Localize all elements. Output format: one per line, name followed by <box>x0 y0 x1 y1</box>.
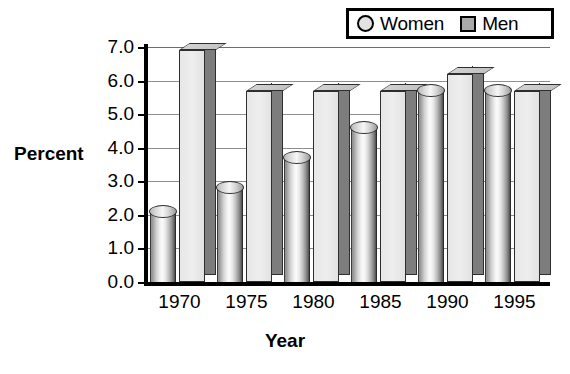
bar-women-1970[interactable] <box>150 212 176 283</box>
x-tick-label: 1970 <box>158 291 200 313</box>
x-axis-line <box>144 282 550 286</box>
y-axis-tick <box>138 81 145 83</box>
x-tick-label: 1985 <box>359 291 401 313</box>
bar-cylinder-body <box>284 158 310 282</box>
bar-side-face <box>339 84 350 275</box>
bar-women-1985[interactable] <box>351 128 377 282</box>
bar-women-1980[interactable] <box>284 158 310 282</box>
legend-entry-men[interactable]: Men <box>460 13 518 35</box>
x-tick-label: 1990 <box>426 291 468 313</box>
bar-front-face <box>514 91 540 282</box>
circle-marker-icon <box>357 15 374 32</box>
y-axis-tick <box>138 181 145 183</box>
bar-side-face <box>205 43 216 275</box>
legend-label-women: Women <box>380 13 444 35</box>
bar-cylinder-top <box>283 151 311 164</box>
x-tick-label: 1975 <box>225 291 267 313</box>
bar-top-face <box>447 67 495 74</box>
bar-front-face <box>313 91 339 282</box>
bar-side-face <box>473 67 484 275</box>
chart-title-fragment: g <box>0 0 570 8</box>
bar-cylinder-body <box>217 188 243 282</box>
bar-cylinder-top <box>417 84 445 97</box>
y-axis-title: Percent <box>14 143 84 165</box>
y-tick-label: 2.0 <box>108 204 134 226</box>
bar-side-face <box>272 84 283 275</box>
bar-men-1985[interactable] <box>380 91 406 282</box>
bar-side-face <box>406 84 417 275</box>
y-tick-label: 5.0 <box>108 103 134 125</box>
bar-front-face <box>447 74 473 282</box>
bar-cylinder-body <box>485 91 511 282</box>
y-axis-tick <box>138 248 145 250</box>
chart-legend: Women Men <box>346 8 554 39</box>
bar-side-face <box>540 84 551 275</box>
bar-group-container <box>148 47 550 282</box>
bar-top-face <box>246 84 294 91</box>
bar-cylinder-body <box>150 212 176 283</box>
y-axis-tick <box>138 114 145 116</box>
bar-cylinder-body <box>351 128 377 282</box>
bar-men-1980[interactable] <box>313 91 339 282</box>
y-tick-label: 3.0 <box>108 170 134 192</box>
bar-men-1970[interactable] <box>179 50 205 282</box>
bar-chart: g Women Men Percent 0.01.02.03.04.05.06.… <box>0 0 570 374</box>
bar-cylinder-top <box>484 84 512 97</box>
x-tick-label: 1995 <box>493 291 535 313</box>
bar-top-face <box>514 84 562 91</box>
legend-entry-women[interactable]: Women <box>357 13 444 35</box>
bar-cylinder-top <box>216 181 244 194</box>
square-marker-icon <box>460 16 476 32</box>
y-axis-tick <box>138 47 145 49</box>
bar-women-1990[interactable] <box>418 91 444 282</box>
legend-label-men: Men <box>482 13 518 35</box>
bar-cylinder-body <box>418 91 444 282</box>
bar-women-1975[interactable] <box>217 188 243 282</box>
bar-cylinder-top <box>149 205 177 218</box>
bar-cylinder-top <box>350 121 378 134</box>
bar-top-face <box>179 43 227 50</box>
bar-front-face <box>246 91 272 282</box>
y-axis-tick <box>138 148 145 150</box>
bar-men-1990[interactable] <box>447 74 473 282</box>
plot-area: 0.01.02.03.04.05.06.07.0 197019751980198… <box>148 47 550 282</box>
bar-men-1975[interactable] <box>246 91 272 282</box>
x-tick-label: 1980 <box>292 291 334 313</box>
y-tick-label: 6.0 <box>108 70 134 92</box>
y-tick-label: 4.0 <box>108 137 134 159</box>
bar-front-face <box>179 50 205 282</box>
y-tick-label: 1.0 <box>108 237 134 259</box>
y-axis-tick <box>138 282 145 284</box>
bar-men-1995[interactable] <box>514 91 540 282</box>
bar-top-face <box>313 84 361 91</box>
y-tick-label: 0.0 <box>108 271 134 293</box>
bar-front-face <box>380 91 406 282</box>
bar-women-1995[interactable] <box>485 91 511 282</box>
x-axis-title: Year <box>0 330 570 352</box>
y-tick-label: 7.0 <box>108 36 134 58</box>
y-axis-tick <box>138 215 145 217</box>
